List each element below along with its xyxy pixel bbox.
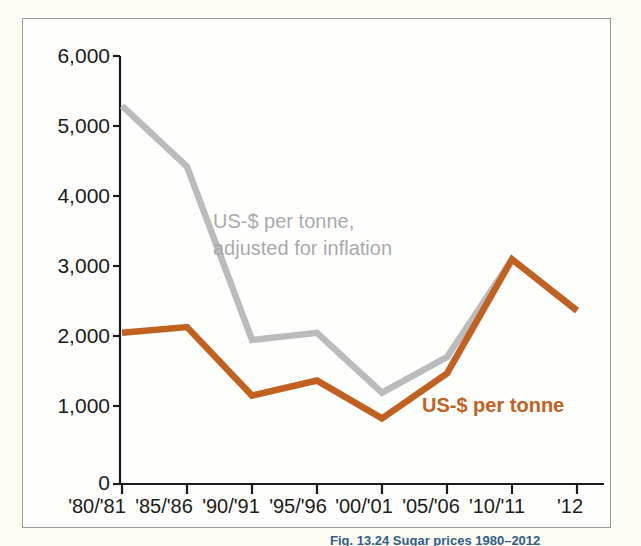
x-tick-label: '05/'06 — [402, 495, 460, 517]
figure-caption: Fig. 13.24 Sugar prices 1980–2012 — [330, 534, 630, 546]
y-tick-label: 6,000 — [57, 44, 110, 67]
x-tick-label: '90/'91 — [202, 495, 260, 517]
line-chart: 6,000 5,000 4,000 3,000 2,000 1,000 0 — [0, 0, 641, 546]
x-tick-label: '80/'81 — [68, 495, 126, 517]
series-annotation-line1: US-$ per tonne, — [213, 210, 354, 232]
series-annotation-nominal: US-$ per tonne — [422, 394, 564, 416]
x-tick-label: '85/'86 — [135, 495, 193, 517]
y-tick-label: 3,000 — [57, 254, 110, 277]
figure-page: 6,000 5,000 4,000 3,000 2,000 1,000 0 — [0, 0, 641, 546]
y-axis-tick-labels: 6,000 5,000 4,000 3,000 2,000 1,000 0 — [57, 44, 110, 494]
series-annotation-line2: adjusted for inflation — [213, 237, 392, 259]
x-axis-tick-labels: '80/'81 '85/'86 '90/'91 '95/'96 '00/'01 … — [68, 495, 583, 517]
x-tick-label: '12 — [557, 495, 583, 517]
x-axis-ticks — [122, 484, 577, 494]
y-tick-label: 0 — [98, 471, 110, 494]
y-tick-label: 1,000 — [57, 394, 110, 417]
x-tick-label: '10/'11 — [469, 495, 525, 517]
y-tick-label: 2,000 — [57, 324, 110, 347]
series-annotation-inflation-adjusted: US-$ per tonne, adjusted for inflation — [213, 210, 392, 259]
x-tick-label: '95/'96 — [269, 495, 327, 517]
y-tick-label: 4,000 — [57, 184, 110, 207]
x-tick-label: '00/'01 — [335, 495, 393, 517]
y-tick-label: 5,000 — [57, 114, 110, 137]
